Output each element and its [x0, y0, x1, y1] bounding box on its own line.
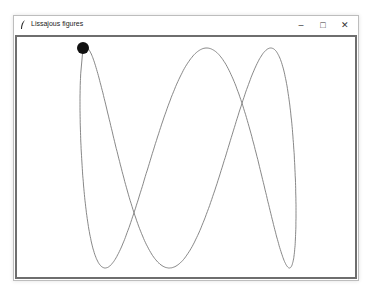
lissajous-plot [0, 0, 375, 293]
pen-dot [77, 42, 89, 54]
lissajous-curve [80, 48, 296, 268]
